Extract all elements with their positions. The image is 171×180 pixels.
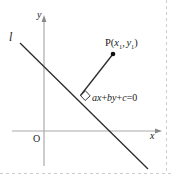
point-p-marker bbox=[111, 52, 116, 57]
right-angle-marker-icon bbox=[80, 90, 90, 100]
equation-term-b: by bbox=[107, 92, 116, 103]
line-equation-label: ax+by+c=0 bbox=[92, 93, 137, 103]
x-axis-label: x bbox=[150, 131, 154, 141]
point-p-suffix: ) bbox=[134, 37, 138, 48]
point-p-prefix: P( bbox=[105, 37, 114, 48]
y-axis-arrow-icon bbox=[42, 15, 47, 22]
perpendicular-segment bbox=[81, 54, 114, 96]
origin-label: O bbox=[33, 134, 40, 144]
line-label-l: l bbox=[9, 31, 12, 43]
x-axis-arrow-icon bbox=[155, 129, 162, 134]
equation-equals-zero: =0 bbox=[127, 92, 138, 103]
y-axis-label: y bbox=[37, 10, 41, 20]
line-l bbox=[20, 43, 148, 169]
point-p-label: P(x1,y1) bbox=[105, 38, 138, 51]
figure-canvas bbox=[0, 0, 171, 180]
geometry-figure: l y x O P(x1,y1) ax+by+c=0 bbox=[0, 0, 171, 180]
